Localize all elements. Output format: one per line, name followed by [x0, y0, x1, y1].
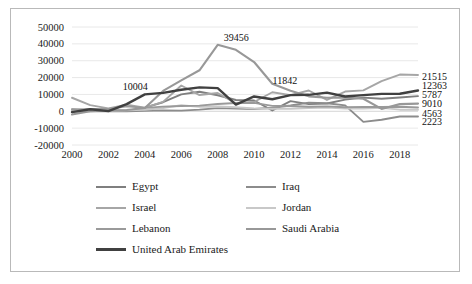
y-axis-tick-label: -20000 — [34, 140, 64, 151]
legend-row: United Arab Emirates — [96, 239, 396, 260]
x-axis-tick-label: 2008 — [207, 149, 228, 160]
y-axis-tick-label: 30000 — [38, 55, 64, 66]
y-axis-tick-label: 0 — [59, 106, 64, 117]
legend-swatch-icon — [96, 186, 126, 188]
legend-item-jordan[interactable]: Jordan — [246, 202, 396, 213]
data-label: 10004 — [123, 81, 148, 92]
legend-row: IsraelJordan — [96, 197, 396, 218]
y-axis-tick-label: 20000 — [38, 72, 64, 83]
legend-label: Saudi Arabia — [282, 223, 339, 234]
chart-legend: EgyptIraqIsraelJordanLebanonSaudi Arabia… — [96, 176, 396, 260]
legend-label: Lebanon — [132, 223, 170, 234]
data-label: 39456 — [224, 32, 249, 43]
x-axis-tick-label: 2006 — [171, 149, 192, 160]
legend-swatch-icon — [246, 228, 276, 230]
x-axis-tick-label: 2018 — [389, 149, 410, 160]
y-axis-tick-label: 10000 — [38, 89, 64, 100]
end-data-label: 2223 — [422, 116, 442, 127]
x-axis-tick-label: 2004 — [134, 149, 156, 160]
legend-item-lebanon[interactable]: Lebanon — [96, 223, 246, 234]
legend-swatch-icon — [246, 207, 276, 209]
y-axis-tick-label: 50000 — [38, 22, 64, 33]
legend-row: LebanonSaudi Arabia — [96, 218, 396, 239]
legend-swatch-icon — [246, 186, 276, 188]
x-axis-tick-label: 2000 — [62, 149, 83, 160]
legend-label: Iraq — [282, 181, 300, 192]
legend-swatch-icon — [96, 228, 126, 230]
legend-item-israel[interactable]: Israel — [96, 202, 246, 213]
legend-row: EgyptIraq — [96, 176, 396, 197]
legend-label: Israel — [132, 202, 156, 213]
legend-item-egypt[interactable]: Egypt — [96, 181, 246, 192]
y-axis-tick-label: 40000 — [38, 38, 64, 49]
legend-item-united-arab-emirates[interactable]: United Arab Emirates — [96, 244, 246, 255]
x-axis-tick-label: 2002 — [98, 149, 119, 160]
x-axis-tick-label: 2012 — [280, 149, 301, 160]
x-axis-tick-label: 2010 — [244, 149, 265, 160]
x-axis-tick-label: 2016 — [353, 149, 374, 160]
chart-figure: -20000-100000100002000030000400005000020… — [0, 0, 472, 284]
y-axis-tick-label: -10000 — [34, 123, 64, 134]
legend-item-iraq[interactable]: Iraq — [246, 181, 396, 192]
legend-label: Jordan — [282, 202, 311, 213]
legend-label: United Arab Emirates — [132, 244, 228, 255]
legend-swatch-icon — [96, 248, 126, 251]
data-label: 11842 — [273, 75, 298, 86]
x-axis-tick-label: 2014 — [316, 149, 338, 160]
legend-swatch-icon — [96, 207, 126, 209]
legend-item-saudi-arabia[interactable]: Saudi Arabia — [246, 223, 396, 234]
legend-label: Egypt — [132, 181, 158, 192]
